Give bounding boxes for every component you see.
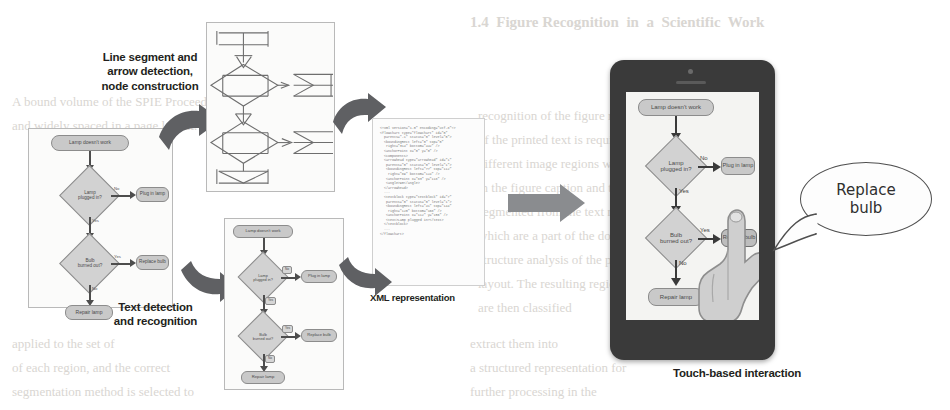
speech-bubble-line1: Replace bbox=[836, 181, 895, 199]
ghost-text-line: structure analysis of the page bbox=[478, 252, 630, 268]
td-node-decision-2-label: Bulb burned out? bbox=[239, 326, 287, 348]
ghost-text-line: of each region, and the correct bbox=[12, 360, 170, 376]
speech-bubble-text: Replace bulb bbox=[836, 181, 895, 217]
ghost-text-line: segmentation method is selected to bbox=[12, 384, 194, 400]
hand-touch-icon bbox=[690, 204, 759, 320]
ghost-text-line: layout. The resulting regions bbox=[478, 276, 627, 292]
td-edge-label-no-1: No bbox=[282, 266, 292, 274]
edge-d2-to-replace bbox=[111, 263, 132, 265]
tb-edge-label-yes-1: Yes bbox=[679, 188, 689, 194]
panel-line-segment-detection bbox=[206, 22, 335, 192]
node-plug-in-lamp-label: Plug in lamp bbox=[140, 192, 165, 197]
line-segment-skeleton bbox=[207, 23, 334, 191]
ghost-text-line: 1.4 Figure Recognition in a Scientific W… bbox=[470, 14, 764, 31]
tablet-camera bbox=[688, 69, 693, 74]
tb-edge-label-no-1: No bbox=[700, 155, 708, 161]
edge-label-no-1: No bbox=[114, 186, 119, 191]
td-d1-line2: plugged in? bbox=[253, 278, 273, 282]
td-node-plug: Plug in lamp bbox=[301, 270, 337, 283]
figure-canvas: 1.4 Figure Recognition in a Scientific W… bbox=[0, 0, 950, 410]
tb-node-start[interactable]: Lamp doesn't work bbox=[638, 99, 714, 116]
pipeline-arrow-5 bbox=[508, 182, 586, 224]
xml-code-line: </flowchart> bbox=[380, 232, 478, 237]
node-start-label: Lamp doesn't work bbox=[69, 140, 111, 145]
speech-bubble-tail bbox=[772, 210, 818, 254]
d2-line2: burned out? bbox=[78, 264, 103, 269]
tb-arrowhead-d2-repair bbox=[671, 278, 681, 286]
node-decision-plugged-in-label: Lamp plugged in? bbox=[62, 182, 118, 210]
node-plug-in-lamp: Plug in lamp bbox=[136, 187, 169, 202]
tb-arrowhead-d1-plug bbox=[713, 162, 721, 172]
xml-code-block: <?xml version="1.0" encoding="utf-8"?><f… bbox=[380, 126, 478, 236]
tablet-device: Lamp doesn't work Lamp plugged in? No Pl… bbox=[610, 60, 775, 360]
edge-label-yes-2: Yes bbox=[114, 254, 121, 259]
caption-touch-interaction: Touch-based interaction bbox=[637, 366, 837, 380]
pipeline-arrow-4 bbox=[336, 255, 394, 303]
td-node-start: Lamp doesn't work bbox=[233, 225, 293, 238]
edge-label-yes-1: Yes bbox=[92, 218, 99, 223]
edge-label-no-2: No bbox=[92, 286, 97, 291]
ghost-text-line: further processing in the bbox=[470, 384, 597, 400]
node-decision-bulb-burned-label: Bulb burned out? bbox=[62, 250, 118, 278]
ghost-text-line: extract them into bbox=[470, 336, 558, 352]
td-d2-line2: burned out? bbox=[253, 337, 273, 341]
td-node-start-label: Lamp doesn't work bbox=[245, 229, 280, 233]
ghost-text-line: applied to the set of bbox=[12, 336, 115, 352]
td-node-decision-1-label: Lamp plugged in? bbox=[239, 267, 287, 289]
tb-node-plug-label: Plug in lamp bbox=[723, 163, 754, 169]
td-node-repair: Repair lamp bbox=[241, 371, 285, 384]
td-edge-label-no-2: No bbox=[265, 355, 275, 363]
panel-text-detection: Lamp doesn't work Lamp plugged in? No Pl… bbox=[224, 218, 344, 390]
d1-line2: plugged in? bbox=[78, 196, 102, 201]
td-edge-label-yes-2: Yes bbox=[282, 325, 293, 333]
tb-node-plug[interactable]: Plug in lamp bbox=[721, 157, 755, 175]
edge-d1-to-plug bbox=[111, 195, 132, 197]
tb-node-start-label: Lamp doesn't work bbox=[651, 104, 701, 110]
tablet-speaker bbox=[676, 81, 706, 84]
tb-node-repair-label: Repair lamp bbox=[660, 294, 692, 300]
tablet-screen[interactable]: Lamp doesn't work Lamp plugged in? No Pl… bbox=[626, 92, 759, 320]
td-edge-label-yes-1: Yes bbox=[265, 297, 276, 305]
tb-node-decision-1-label: Lamp plugged in? bbox=[646, 153, 706, 179]
ghost-text-line: a structured representation for bbox=[470, 360, 626, 376]
td-node-plug-label: Plug in lamp bbox=[308, 274, 330, 278]
node-replace-bulb-label: Replace bulb bbox=[139, 260, 166, 265]
td-node-replace: Replace bulb bbox=[301, 329, 337, 342]
speech-bubble-replace-bulb: Replace bulb bbox=[800, 162, 932, 236]
panel-original-flowchart: Lamp doesn't work Lamp plugged in? No Pl… bbox=[28, 128, 173, 308]
node-start: Lamp doesn't work bbox=[51, 135, 129, 151]
tb-d1-line2: plugged in? bbox=[660, 166, 691, 172]
tb-edge-label-no-2: No bbox=[679, 260, 687, 266]
node-replace-bulb: Replace bulb bbox=[136, 255, 169, 270]
td-node-repair-label: Repair lamp bbox=[252, 375, 275, 379]
tb-d2-line2: burned out? bbox=[660, 238, 692, 244]
td-node-replace-label: Replace bulb bbox=[307, 333, 330, 337]
speech-bubble-line2: bulb bbox=[836, 199, 895, 217]
